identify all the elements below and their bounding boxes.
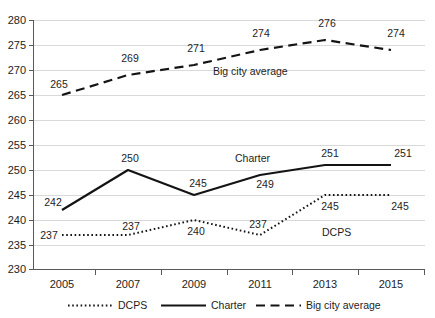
- value-label: 237: [40, 229, 58, 241]
- x-tick-label: 2013: [313, 278, 337, 290]
- inline-label-big-city-average: Big city average: [213, 65, 288, 77]
- chart-canvas: 280 275 270 265 260 255 250 245 240 235 …: [0, 0, 435, 318]
- x-tick-labels: 2005 2007 2009 2011 2013 2015: [50, 278, 403, 290]
- legend-label-big-city-average: Big city average: [306, 299, 381, 311]
- value-labels-charter: 242 250 245 249 251 251: [44, 147, 412, 208]
- x-tick-label: 2011: [248, 278, 272, 290]
- value-label: 274: [252, 27, 270, 39]
- legend-label-charter: Charter: [211, 299, 247, 311]
- value-label: 237: [249, 218, 267, 230]
- value-label: 269: [121, 52, 139, 64]
- value-label: 237: [122, 220, 140, 232]
- value-label: 276: [318, 17, 336, 29]
- legend-item-charter[interactable]: Charter: [161, 299, 247, 311]
- value-label: 245: [391, 200, 409, 212]
- legend-item-big-city-average[interactable]: Big city average: [256, 299, 381, 311]
- x-tick-label: 2009: [182, 278, 206, 290]
- y-tick-label: 240: [8, 214, 26, 226]
- gridlines: [33, 21, 425, 246]
- legend-item-dcps[interactable]: DCPS: [68, 299, 147, 311]
- y-tick-label: 265: [8, 89, 26, 101]
- y-tick-label: 260: [8, 114, 26, 126]
- chart-legend: DCPS Charter Big city average: [68, 299, 381, 311]
- series-line-charter: [62, 165, 391, 210]
- y-tick-label: 275: [8, 39, 26, 51]
- inline-label-charter: Charter: [235, 152, 271, 164]
- value-label: 245: [321, 200, 339, 212]
- y-tick-label: 250: [8, 164, 26, 176]
- value-label: 245: [189, 177, 207, 189]
- x-tick-label: 2005: [50, 278, 74, 290]
- y-tick-label: 230: [8, 263, 26, 275]
- value-label: 242: [44, 196, 62, 208]
- value-label: 271: [187, 42, 205, 54]
- y-tick-labels: 280 275 270 265 260 255 250 245 240 235 …: [8, 14, 26, 275]
- y-tick-label: 245: [8, 189, 26, 201]
- inline-label-dcps: DCPS: [322, 226, 351, 238]
- x-tick-label: 2007: [116, 278, 140, 290]
- value-labels-big-city-average: 265 269 271 274 276 274: [50, 17, 405, 90]
- y-tick-label: 255: [8, 139, 26, 151]
- y-tick-label: 235: [8, 239, 26, 251]
- value-label: 249: [256, 178, 274, 190]
- value-label: 250: [121, 152, 139, 164]
- x-tick-label: 2015: [379, 278, 403, 290]
- value-label: 265: [50, 78, 68, 90]
- value-label: 251: [321, 147, 339, 159]
- value-label: 240: [187, 225, 205, 237]
- line-chart: 280 275 270 265 260 255 250 245 240 235 …: [0, 0, 435, 318]
- y-tick-label: 280: [8, 14, 26, 26]
- y-axis: [29, 20, 34, 270]
- x-axis: [33, 270, 425, 276]
- legend-label-dcps: DCPS: [118, 299, 147, 311]
- value-label: 251: [394, 147, 412, 159]
- y-tick-label: 270: [8, 64, 26, 76]
- value-label: 274: [387, 27, 405, 39]
